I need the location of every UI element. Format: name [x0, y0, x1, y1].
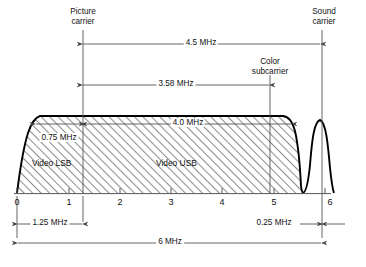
dim-4-5-mhz-label: 4.5 MHz	[184, 38, 218, 47]
spectrum-diagram: Picture carrier Color subcarrier Sound c…	[0, 0, 366, 267]
dim-6-mhz-label: 6 MHz	[156, 237, 184, 246]
sound-carrier-label: Sound carrier	[312, 7, 336, 27]
dim-4-0-mhz-label: 4.0 MHz	[171, 118, 205, 127]
dim-0-75-mhz-label: 0.75 MHz	[39, 133, 78, 142]
dim-1-25-mhz-label: 1.25 MHz	[30, 218, 69, 227]
video-usb-label: Video USB	[156, 158, 197, 168]
axis-tick-label-2: 2	[117, 197, 122, 207]
axis-tick-label-0: 0	[14, 197, 19, 207]
color-subcarrier-label-line2: subcarrier	[252, 67, 288, 77]
picture-carrier-label-line2: carrier	[70, 17, 95, 27]
axis-tick-label-4: 4	[219, 197, 224, 207]
axis-tick-label-6: 6	[327, 197, 332, 207]
dim-3-58-mhz-label: 3.58 MHz	[156, 79, 195, 88]
video-lsb-label: Video LSB	[32, 158, 71, 168]
axis-tick-label-3: 3	[168, 197, 173, 207]
dim-0-25-mhz-label: 0.25 MHz	[254, 218, 293, 227]
axis-tick-label-1: 1	[66, 197, 71, 207]
sound-carrier-label-line1: Sound	[312, 7, 336, 17]
video-envelope-group	[17, 116, 303, 193]
picture-carrier-label-line1: Picture	[70, 7, 95, 17]
sound-carrier-label-line2: carrier	[312, 17, 336, 27]
sound-carrier-curve	[303, 120, 334, 193]
sound-carrier-curve-group	[303, 120, 334, 193]
color-subcarrier-label-line1: Color	[252, 57, 288, 67]
color-subcarrier-label: Color subcarrier	[252, 57, 288, 77]
picture-carrier-label: Picture carrier	[70, 7, 95, 27]
video-envelope-fill	[17, 116, 303, 193]
axis-tick-label-5: 5	[271, 197, 276, 207]
